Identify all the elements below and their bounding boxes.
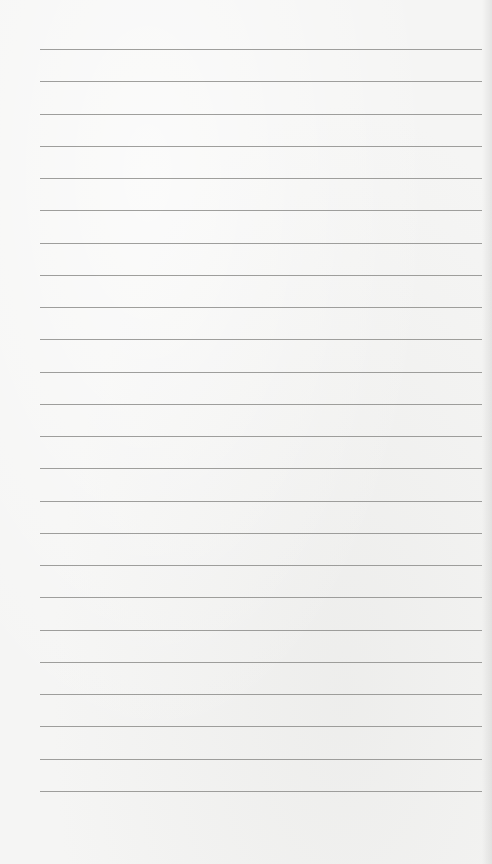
ruled-line xyxy=(40,436,482,437)
ruled-line xyxy=(40,307,482,308)
ruled-line xyxy=(40,243,482,244)
ruled-line xyxy=(40,597,482,598)
lined-paper-sheet xyxy=(0,0,492,864)
ruled-line xyxy=(40,146,482,147)
ruled-line xyxy=(40,791,482,792)
ruled-line xyxy=(40,210,482,211)
ruled-line xyxy=(40,404,482,405)
ruled-line xyxy=(40,275,482,276)
ruled-line xyxy=(40,694,482,695)
ruled-line xyxy=(40,339,482,340)
ruled-line xyxy=(40,49,482,50)
ruled-line xyxy=(40,759,482,760)
ruled-line xyxy=(40,565,482,566)
ruled-line xyxy=(40,630,482,631)
ruled-line xyxy=(40,114,482,115)
ruled-line xyxy=(40,726,482,727)
right-edge-shadow xyxy=(482,0,492,864)
ruled-line xyxy=(40,501,482,502)
ruled-line xyxy=(40,372,482,373)
ruled-line xyxy=(40,81,482,82)
ruled-line xyxy=(40,533,482,534)
ruled-line xyxy=(40,468,482,469)
ruled-line xyxy=(40,178,482,179)
ruled-line xyxy=(40,662,482,663)
